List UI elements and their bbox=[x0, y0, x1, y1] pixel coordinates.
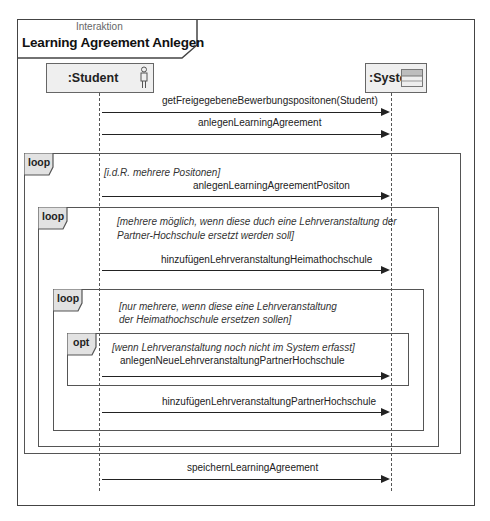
loop-guard-line2: Partner-Hochschule ersetzt werden soll] bbox=[117, 229, 294, 242]
actor-icon bbox=[139, 66, 149, 90]
message-arrow[interactable] bbox=[102, 134, 388, 135]
message-label: getFreigegebeneBewerbungspositonen(Stude… bbox=[162, 95, 378, 106]
message-label: anlegenNeueLehrveranstaltungPartnerHochs… bbox=[120, 355, 345, 366]
opt-guard: [wenn Lehrveranstaltung noch nicht im Sy… bbox=[112, 341, 355, 354]
lifeline-student[interactable]: :Student bbox=[46, 63, 154, 93]
fragment-operator-opt: opt bbox=[73, 336, 89, 348]
message-label: hinzufügenLehrveranstaltungHeimathochsch… bbox=[161, 254, 372, 265]
message-label: speichernLearningAgreement bbox=[187, 462, 318, 473]
message-arrow[interactable] bbox=[102, 112, 388, 113]
loop-guard: [i.d.R. mehrere Positonen] bbox=[104, 166, 220, 179]
message-label: anlegenLearningAgreement bbox=[198, 117, 321, 128]
fragment-operator-loop: loop bbox=[28, 156, 50, 168]
message-arrow[interactable] bbox=[102, 412, 388, 413]
diagram-kind-label: Interaktion bbox=[76, 21, 123, 32]
message-arrow[interactable] bbox=[102, 376, 388, 377]
message-arrow[interactable] bbox=[102, 479, 388, 480]
message-label: anlegenLearningAgreementPositon bbox=[193, 180, 350, 191]
fragment-operator-loop: loop bbox=[42, 210, 64, 222]
fragment-operator-loop: loop bbox=[57, 292, 79, 304]
loop-guard-line1: [mehrere möglich, wenn diese duch eine L… bbox=[117, 215, 397, 228]
message-arrow[interactable] bbox=[102, 270, 388, 271]
message-arrow[interactable] bbox=[102, 196, 388, 197]
loop-guard-line2: der Heimathochschule ersetzen sollen] bbox=[119, 313, 291, 326]
message-label: hinzufügenLehrveranstaltungPartnerHochsc… bbox=[162, 396, 376, 407]
lifeline-student-label: :Student bbox=[68, 71, 119, 85]
diagram-title: Learning Agreement Anlegen bbox=[22, 35, 204, 50]
class-icon bbox=[401, 69, 423, 87]
loop-guard-line1: [nur mehrere, wenn diese eine Lehrverans… bbox=[119, 300, 337, 313]
